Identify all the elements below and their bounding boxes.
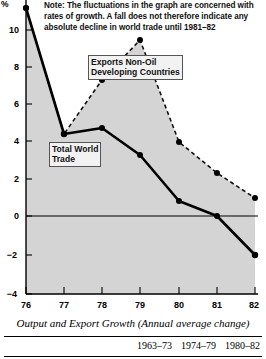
x-tick-label-80: 80 [169,300,189,310]
y-tick-label-minus2: −2 [0,250,17,260]
period-1963-73: 1963–73 [137,340,172,351]
y-tick-label-8: 8 [2,62,19,72]
figure-caption: Output and Export Growth (Annual average… [0,317,266,329]
series-label-total-world-trade: Total World Trade [49,142,101,167]
x-tick-label-79: 79 [130,300,150,310]
y-tick-label-6: 6 [2,99,19,109]
period-1974-79: 1974–79 [181,340,216,351]
x-tick-label-77: 77 [54,300,74,310]
period-1980-82: 1980–82 [225,340,260,351]
x-tick-label-81: 81 [207,300,227,310]
period-header-row: 1963–73 1974–79 1980–82 [0,340,266,351]
table-rule-top [4,336,262,337]
y-tick-label-minus4: −4 [0,289,17,299]
table-rule-bottom [4,356,262,357]
y-tick-label-4: 4 [2,136,19,146]
x-tick-label-76: 76 [16,300,36,310]
x-tick-label-82: 82 [244,300,264,310]
x-tick-label-78: 78 [92,300,112,310]
y-tick-label-10: 10 [2,25,19,35]
series-label-exports: Exports Non-Oil Developing Countries [88,55,183,80]
y-tick-label-0: 0 [2,211,19,221]
y-tick-label-2: 2 [2,174,19,184]
chart-figure: Note: The fluctuations in the graph are … [0,0,266,359]
